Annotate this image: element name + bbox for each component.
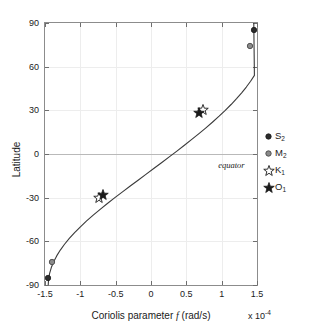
- x-tick-label: 0: [148, 289, 153, 299]
- curve-path: [48, 23, 254, 285]
- x-axis-exponent: x 10-4: [248, 309, 271, 321]
- plot-area: equator: [44, 22, 258, 286]
- y-tick-label: -60: [8, 236, 39, 246]
- legend-item-o1[interactable]: O1: [262, 179, 308, 196]
- x-axis-label-prefix: Coriolis parameter: [92, 310, 176, 321]
- legend-label-subscript: 1: [281, 169, 285, 176]
- x-tick-label: -0.5: [108, 289, 124, 299]
- coriolis-curve: [45, 23, 257, 285]
- data-point-m2: [47, 258, 56, 267]
- y-tick-label: 90: [8, 18, 39, 28]
- exponent-power: -4: [265, 309, 271, 316]
- x-tick-label: -1: [76, 289, 84, 299]
- filled-circle-icon: [262, 132, 275, 141]
- open-star-icon: [262, 165, 275, 177]
- legend-label: M2: [275, 148, 287, 160]
- filled-star-icon: [262, 182, 275, 194]
- y-tick-label: 60: [8, 62, 39, 72]
- y-tick: [45, 285, 49, 286]
- y-tick: [253, 285, 257, 286]
- x-axis-label-suffix: (rad/s): [179, 310, 211, 321]
- chart-legend: S2M2K1O1: [262, 128, 308, 196]
- x-tick-label: 1.5: [251, 289, 264, 299]
- x-tick: [257, 281, 258, 285]
- chart-figure: equator -1.5-1-0.500.511.5 9060300-30-60…: [0, 0, 309, 333]
- y-tick-label: 30: [8, 105, 39, 115]
- exponent-prefix: x 10: [248, 311, 265, 321]
- x-tick-label: 0.5: [180, 289, 193, 299]
- legend-item-s2[interactable]: S2: [262, 128, 308, 145]
- data-point-s2: [44, 273, 53, 282]
- gray-circle-icon: [262, 149, 275, 158]
- data-point-m2: [246, 41, 255, 50]
- legend-label-base: M: [275, 147, 283, 158]
- legend-label: K1: [275, 165, 285, 177]
- legend-item-m2[interactable]: M2: [262, 145, 308, 162]
- data-point-o1: [97, 189, 109, 201]
- data-point-o1: [193, 107, 205, 119]
- legend-label: O1: [275, 182, 286, 194]
- x-tick-label: 1: [219, 289, 224, 299]
- legend-label-subscript: 2: [283, 152, 287, 159]
- legend-item-k1[interactable]: K1: [262, 162, 308, 179]
- data-point-s2: [249, 26, 258, 35]
- y-axis-label: Latitude: [11, 120, 22, 200]
- legend-label-subscript: 1: [282, 186, 286, 193]
- x-axis-label: Coriolis parameter f (rad/s): [44, 310, 258, 321]
- equator-annotation: equator: [218, 160, 244, 170]
- legend-label: S2: [275, 131, 285, 143]
- x-tick-label: -1.5: [37, 289, 53, 299]
- y-tick-label: -90: [8, 280, 39, 290]
- legend-label-subscript: 2: [281, 135, 285, 142]
